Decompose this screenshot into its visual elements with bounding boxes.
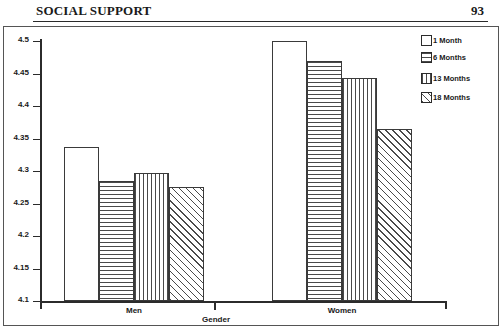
legend-label: 13 Months: [433, 74, 470, 83]
bar-men-6-months: [99, 181, 134, 301]
y-axis-tick: 4.15: [33, 269, 41, 270]
bar-women-1-month: [272, 41, 307, 301]
bar-women-18-months: [377, 129, 412, 301]
page-header: SOCIAL SUPPORT 93: [0, 0, 502, 26]
y-axis-tick: 4.5: [33, 41, 41, 42]
legend-label: 18 Months: [433, 93, 470, 102]
page-number: 93: [471, 3, 484, 19]
header-rule: [33, 21, 488, 22]
y-axis-tick-label: 4.2: [18, 230, 29, 239]
legend-label: 6 Months: [433, 53, 466, 62]
legend-swatch-icon: [421, 73, 432, 84]
y-axis-tick-label: 4.25: [13, 198, 29, 207]
figure-frame: 4.54.454.44.354.34.254.24.154.1 MenWomen…: [3, 26, 499, 326]
y-axis-tick: 4.45: [33, 74, 41, 75]
group-label-men: Men: [89, 306, 179, 315]
y-axis-tick-label: 4.4: [18, 100, 29, 109]
legend-label: 1 Month: [433, 36, 462, 45]
bar-men-13-months: [134, 173, 169, 301]
legend-swatch-icon: [421, 35, 432, 46]
chart-plot-area: 4.54.454.44.354.34.254.24.154.1 MenWomen…: [4, 27, 500, 327]
y-axis-tick-label: 4.5: [18, 35, 29, 44]
bar-women-6-months: [307, 61, 342, 301]
x-axis-end-tick: [445, 301, 447, 309]
bar-women-13-months: [342, 78, 377, 301]
bar-men-1-month: [64, 147, 99, 301]
y-axis-tick-label: 4.45: [13, 68, 29, 77]
legend-swatch-icon: [421, 92, 432, 103]
y-axis-tick: 4.4: [33, 106, 41, 107]
x-axis-mid-tick: [214, 301, 216, 310]
y-axis-tick: 4.35: [33, 139, 41, 140]
y-axis-tick: 4.3: [33, 171, 41, 172]
y-axis-tick-label: 4.15: [13, 263, 29, 272]
x-axis-title: Gender: [174, 315, 258, 324]
bar-men-18-months: [169, 187, 204, 301]
y-axis-tick-label: 4.3: [18, 165, 29, 174]
y-axis-tick: 4.2: [33, 236, 41, 237]
x-axis-line: [40, 301, 447, 303]
page-title: SOCIAL SUPPORT: [36, 3, 151, 19]
x-axis-start-tick: [40, 301, 42, 309]
y-axis-tick-label: 4.1: [18, 295, 29, 304]
y-axis-tick-label: 4.35: [13, 133, 29, 142]
group-label-women: Women: [297, 306, 387, 315]
y-axis-tick: 4.25: [33, 204, 41, 205]
legend-swatch-icon: [421, 52, 432, 63]
